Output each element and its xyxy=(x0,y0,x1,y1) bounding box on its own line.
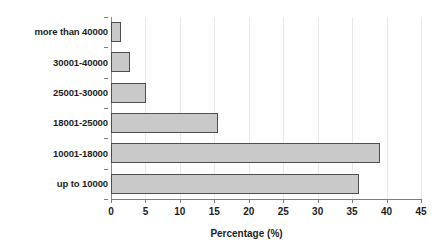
x-axis-tick xyxy=(180,199,181,203)
bar xyxy=(111,143,380,163)
bar-row xyxy=(111,138,421,168)
x-axis-tick xyxy=(318,199,319,203)
y-axis-tick xyxy=(104,169,108,170)
bar xyxy=(111,83,146,103)
x-axis-tick xyxy=(421,199,422,203)
y-axis-tick xyxy=(104,108,108,109)
y-axis-tick-label: more than 40000 xyxy=(4,26,108,37)
y-axis-tick-label: 18001-25000 xyxy=(4,117,108,128)
y-axis-tick xyxy=(104,78,108,79)
x-axis-tick xyxy=(145,199,146,203)
bar-row xyxy=(111,17,421,47)
bar-row xyxy=(111,47,421,77)
bar-row xyxy=(111,169,421,199)
y-axis-tick-label: 30001-40000 xyxy=(4,57,108,68)
plot-area xyxy=(111,17,421,199)
bar xyxy=(111,22,121,42)
y-axis-tick-label: up to 10000 xyxy=(4,178,108,189)
x-axis-tick xyxy=(387,199,388,203)
bar-row xyxy=(111,108,421,138)
y-axis-tick xyxy=(104,138,108,139)
x-axis-tick xyxy=(214,199,215,203)
y-axis-tick-label: 25001-30000 xyxy=(4,87,108,98)
x-axis-line xyxy=(111,199,422,200)
y-axis-tick xyxy=(104,47,108,48)
y-axis-category-labels: up to 1000010001-1800018001-2500025001-3… xyxy=(0,17,108,199)
bar xyxy=(111,174,359,194)
bar-row xyxy=(111,78,421,108)
x-axis-tick xyxy=(111,199,112,203)
x-axis-tick-label: 45 xyxy=(401,206,441,217)
gridline xyxy=(421,17,422,199)
x-axis-tick xyxy=(249,199,250,203)
y-axis-tick xyxy=(104,17,108,18)
bar xyxy=(111,113,218,133)
y-axis-tick xyxy=(104,199,108,200)
y-axis-tick-label: 10001-18000 xyxy=(4,148,108,159)
x-axis-title: Percentage (%) xyxy=(0,228,441,239)
x-axis-tick xyxy=(283,199,284,203)
x-axis-tick xyxy=(352,199,353,203)
bar-chart: up to 1000010001-1800018001-2500025001-3… xyxy=(0,0,441,251)
bar xyxy=(111,52,130,72)
